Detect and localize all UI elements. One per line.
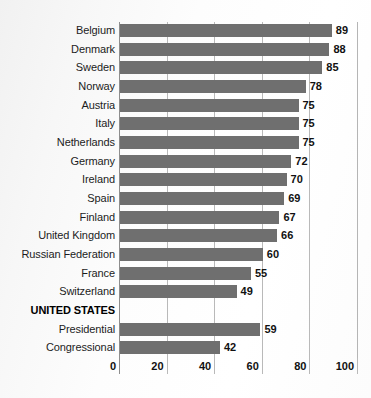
table-row: Finland67: [0, 209, 371, 229]
table-row: Spain69: [0, 190, 371, 210]
bar-category-label: Ireland: [82, 173, 115, 186]
table-row: Italy75: [0, 115, 371, 135]
table-row: UNITED STATES: [0, 302, 371, 322]
bar: [120, 229, 277, 242]
table-row: Russian Federation60: [0, 246, 371, 266]
bar-category-label: UNITED STATES: [31, 304, 115, 317]
bar-rows: Belgium89Denmark88Sweden85Norway78Austri…: [0, 22, 371, 358]
table-row: Germany72: [0, 153, 371, 173]
bar-category-label: Switzerland: [59, 285, 115, 298]
bar-category-label: Belgium: [76, 24, 115, 37]
bar-category-label: Austria: [81, 99, 115, 112]
bar: [120, 323, 260, 336]
bar: [120, 155, 291, 168]
table-row: Belgium89: [0, 22, 371, 42]
table-row: France55: [0, 265, 371, 285]
bar: [120, 211, 279, 224]
x-tick-label-0: 0: [110, 360, 116, 373]
table-row: Denmark88: [0, 41, 371, 61]
bar: [120, 99, 299, 112]
bar-category-label: Presidential: [59, 323, 115, 336]
x-tick-label-60: 60: [247, 360, 259, 373]
table-row: Switzerland49: [0, 283, 371, 303]
bar-category-label: Russian Federation: [21, 248, 115, 261]
bar-category-label: United Kingdom: [38, 229, 115, 242]
bar-value-label: 66: [281, 229, 293, 242]
bar: [120, 192, 284, 205]
bar: [120, 341, 220, 354]
bar: [120, 43, 329, 56]
x-axis-tick-labels: 020406080100: [0, 358, 371, 378]
x-tick-label-20: 20: [151, 360, 163, 373]
bar-value-label: 60: [267, 248, 279, 261]
bar: [120, 173, 287, 186]
bar-category-label: Norway: [78, 80, 115, 93]
bar-category-label: Denmark: [71, 43, 115, 56]
bar-value-label: 49: [241, 285, 253, 298]
bar-value-label: 75: [303, 117, 315, 130]
table-row: United Kingdom66: [0, 227, 371, 247]
bar-category-label: Germany: [70, 155, 115, 168]
bar-value-label: 69: [288, 192, 300, 205]
bar: [120, 285, 237, 298]
bar-category-label: Finland: [80, 211, 115, 224]
table-row: Congressional42: [0, 339, 371, 359]
bar: [120, 80, 306, 93]
bar-value-label: 55: [255, 267, 267, 280]
table-row: Austria75: [0, 97, 371, 117]
table-row: Presidential59: [0, 321, 371, 341]
x-tick-label-80: 80: [294, 360, 306, 373]
bar-value-label: 78: [310, 80, 322, 93]
bar: [120, 267, 251, 280]
bar-value-label: 72: [295, 155, 307, 168]
bar-category-label: Netherlands: [57, 136, 115, 149]
table-row: Netherlands75: [0, 134, 371, 154]
bar-value-label: 89: [336, 24, 348, 37]
bar-category-label: Spain: [87, 192, 115, 205]
bar-value-label: 75: [303, 99, 315, 112]
bar-value-label: 70: [291, 173, 303, 186]
bar: [120, 24, 332, 37]
bar-value-label: 75: [303, 136, 315, 149]
table-row: Norway78: [0, 78, 371, 98]
table-row: Ireland70: [0, 171, 371, 191]
bar-category-label: Sweden: [76, 61, 115, 74]
bar: [120, 136, 299, 149]
x-tick-label-40: 40: [199, 360, 211, 373]
bar: [120, 248, 263, 261]
table-row: Sweden85: [0, 59, 371, 79]
bar-category-label: Italy: [95, 117, 115, 130]
bar-value-label: 67: [283, 211, 295, 224]
bar-value-label: 59: [264, 323, 276, 336]
bar-value-label: 85: [326, 61, 338, 74]
voter-turnout-bar-chart: Belgium89Denmark88Sweden85Norway78Austri…: [0, 0, 371, 398]
bar-value-label: 42: [224, 341, 236, 354]
bar-category-label: France: [81, 267, 115, 280]
bar-value-label: 88: [333, 43, 345, 56]
bar-category-label: Congressional: [46, 341, 115, 354]
bar: [120, 61, 322, 74]
bar: [120, 117, 299, 130]
x-tick-label-100: 100: [336, 360, 354, 373]
